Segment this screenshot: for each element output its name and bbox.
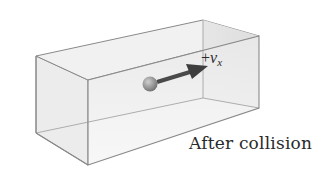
velocity-label: +vx: [201, 49, 222, 68]
molecule-ball: [143, 77, 158, 92]
caption: After collision: [189, 133, 312, 153]
